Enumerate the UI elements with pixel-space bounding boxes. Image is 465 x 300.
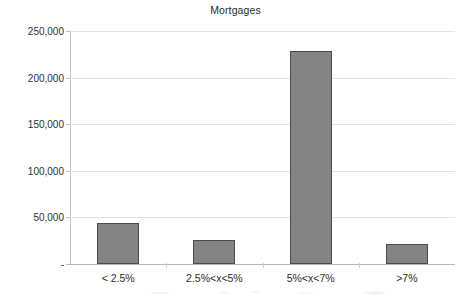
y-axis-label: - (2, 259, 64, 270)
bar (97, 223, 139, 264)
y-axis-label: 150,000 (2, 119, 64, 130)
gridline (70, 124, 455, 125)
scan-artifact (130, 290, 430, 296)
y-axis-labels: 250,000200,000150,000100,00050,000- (0, 0, 64, 300)
x-axis-label: 2.5%<x<5% (186, 272, 243, 284)
plot-area (70, 31, 455, 264)
y-axis-label: 100,000 (2, 165, 64, 176)
chart-title: Mortgages (0, 4, 465, 16)
gridline (70, 31, 455, 32)
bar (193, 240, 235, 264)
category-tick (359, 263, 360, 268)
x-axis-label: >7% (396, 272, 417, 284)
bar-chart: Mortgages 250,000200,000150,000100,00050… (0, 0, 465, 300)
chart-title-text: Mortgages (210, 4, 261, 16)
x-axis-label: < 2.5% (102, 272, 135, 284)
category-tick (263, 263, 264, 268)
gridline (70, 171, 455, 172)
gridline (70, 217, 455, 218)
gridline (70, 78, 455, 79)
category-tick (166, 263, 167, 268)
x-axis-label: 5%<x<7% (287, 272, 335, 284)
x-axis-labels: < 2.5%2.5%<x<5%5%<x<7%>7% (70, 272, 455, 292)
bar (386, 244, 428, 264)
y-axis-label: 200,000 (2, 72, 64, 83)
y-axis-label: 50,000 (2, 212, 64, 223)
y-axis-label: 250,000 (2, 26, 64, 37)
bar (290, 51, 332, 264)
